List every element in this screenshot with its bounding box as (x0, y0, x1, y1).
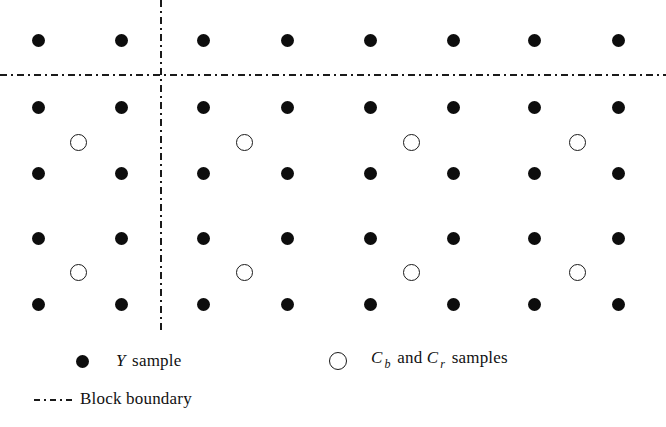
legend-row-boundary: Block boundary (0, 384, 666, 414)
y-sample-marker (364, 298, 377, 311)
y-sample-marker (115, 298, 128, 311)
y-sample-marker (447, 167, 460, 180)
y-sample-marker (447, 232, 460, 245)
legend-row-samples: Y sample Cb and Cr samples (0, 346, 666, 376)
symbol-c-r: C (427, 348, 441, 367)
y-sample-marker (197, 101, 210, 114)
y-sample-marker (528, 298, 541, 311)
y-sample-marker (197, 167, 210, 180)
legend-label-block-boundary: Block boundary (74, 389, 192, 409)
y-sample-marker (612, 167, 625, 180)
y-sample-marker (364, 232, 377, 245)
chroma-sample-marker (569, 264, 586, 281)
y-sample-marker (32, 34, 45, 47)
symbol-c-b: C (371, 348, 385, 367)
symbol-y: Y (116, 351, 128, 370)
y-sample-marker (32, 167, 45, 180)
legend-item-block-boundary: Block boundary (34, 384, 192, 414)
legend-item-y-sample: Y sample (70, 346, 181, 376)
y-sample-marker (197, 232, 210, 245)
y-sample-marker (612, 101, 625, 114)
y-sample-marker (281, 232, 294, 245)
y-sample-marker (364, 167, 377, 180)
legend-text-y: sample (128, 351, 182, 370)
y-sample-marker (447, 298, 460, 311)
open-circle-icon (325, 348, 365, 374)
figure-legend: Y sample Cb and Cr samples Block boundar… (0, 336, 666, 427)
chroma-sample-marker (403, 264, 420, 281)
sampling-grid-figure: Y sample Cb and Cr samples Block boundar… (0, 0, 666, 427)
chroma-sample-marker (70, 264, 87, 281)
legend-label-y-sample: Y sample (110, 351, 181, 371)
y-sample-marker (115, 232, 128, 245)
y-sample-marker (364, 101, 377, 114)
chroma-sample-marker (236, 134, 253, 151)
y-sample-marker (612, 232, 625, 245)
chroma-sample-marker (70, 134, 87, 151)
y-sample-marker (281, 34, 294, 47)
y-sample-marker (281, 298, 294, 311)
subscript-b: b (385, 357, 393, 371)
y-sample-marker (364, 34, 377, 47)
legend-label-chroma-samples: Cb and Cr samples (365, 348, 508, 373)
y-sample-marker (612, 34, 625, 47)
legend-text-samples: samples (447, 348, 508, 367)
y-sample-marker (32, 232, 45, 245)
y-sample-marker (281, 167, 294, 180)
block-boundary-horizontal (0, 74, 666, 76)
y-sample-marker (612, 298, 625, 311)
block-boundary-vertical (160, 0, 162, 330)
chroma-sample-marker (236, 264, 253, 281)
y-sample-marker (447, 101, 460, 114)
y-sample-marker (115, 34, 128, 47)
legend-text-and: and (393, 348, 427, 367)
chroma-sample-marker (403, 134, 420, 151)
dash-dot-line-icon (34, 386, 74, 412)
y-sample-marker (528, 167, 541, 180)
y-sample-marker (197, 298, 210, 311)
y-sample-marker (115, 167, 128, 180)
y-sample-marker (32, 101, 45, 114)
legend-item-chroma-samples: Cb and Cr samples (325, 346, 508, 376)
filled-dot-icon (70, 348, 110, 374)
y-sample-marker (528, 101, 541, 114)
sampling-grid-area (0, 0, 666, 330)
y-sample-marker (197, 34, 210, 47)
y-sample-marker (115, 101, 128, 114)
y-sample-marker (32, 298, 45, 311)
y-sample-marker (528, 232, 541, 245)
y-sample-marker (528, 34, 541, 47)
y-sample-marker (447, 34, 460, 47)
chroma-sample-marker (569, 134, 586, 151)
y-sample-marker (281, 101, 294, 114)
